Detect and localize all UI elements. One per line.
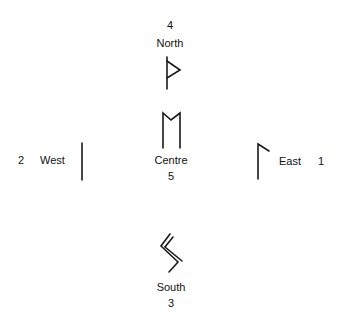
centre-label: Centre [154,154,187,167]
mannaz-rune-icon [163,113,180,148]
wunjo-rune-icon [167,57,180,89]
laguz-rune-icon [258,144,269,179]
east-number: 1 [318,155,324,168]
north-label: North [157,37,184,50]
north-number: 4 [167,19,173,32]
west-number: 2 [18,154,24,167]
east-label: East [279,155,301,168]
sowilo-rune-icon [161,234,182,272]
south-label: South [157,281,186,294]
south-number: 3 [168,297,174,310]
centre-number: 5 [168,170,174,183]
west-label: West [40,154,65,167]
